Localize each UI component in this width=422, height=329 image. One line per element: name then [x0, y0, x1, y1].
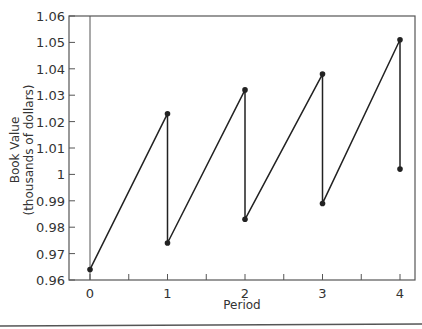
data-point-marker [397, 37, 403, 43]
data-point-marker [320, 201, 326, 207]
bottom-rule [0, 324, 422, 326]
y-tick-label: 0.97 [36, 247, 65, 262]
data-point-marker [165, 240, 171, 246]
data-point-marker [320, 71, 326, 77]
book-value-chart: 0.960.970.980.9911.011.021.031.041.051.0… [0, 0, 422, 329]
y-tick-label: 1.02 [36, 115, 65, 130]
y-tick-label: 0.96 [36, 273, 65, 288]
data-point-marker [242, 216, 248, 222]
data-point-marker [87, 267, 93, 273]
plot-frame [69, 16, 415, 280]
y-axis-subtitle: (thousands of dollars) [22, 84, 36, 215]
axis-ticks: 0.960.970.980.9911.011.021.031.041.051.0… [36, 9, 404, 301]
y-tick-label: 1.05 [36, 35, 65, 50]
y-tick-label: 0.98 [36, 220, 65, 235]
x-axis-title: Period [223, 298, 260, 312]
y-tick-label: 1.03 [36, 88, 65, 103]
x-tick-label: 0 [86, 286, 94, 301]
y-tick-label: 1.06 [36, 9, 65, 24]
y-axis-title: Book Value [8, 117, 22, 184]
y-tick-label: 1.04 [36, 62, 65, 77]
y-tick-label: 1.01 [36, 141, 65, 156]
x-tick-label: 4 [396, 286, 404, 301]
x-tick-label: 3 [318, 286, 326, 301]
data-point-marker [242, 87, 248, 93]
x-tick-label: 1 [163, 286, 171, 301]
y-tick-label: 1 [57, 167, 65, 182]
book-value-line [90, 40, 400, 270]
data-point-marker [397, 166, 403, 172]
data-series [87, 37, 403, 272]
y-tick-label: 0.99 [36, 194, 65, 209]
plot-border [69, 16, 415, 280]
data-point-marker [165, 111, 171, 117]
